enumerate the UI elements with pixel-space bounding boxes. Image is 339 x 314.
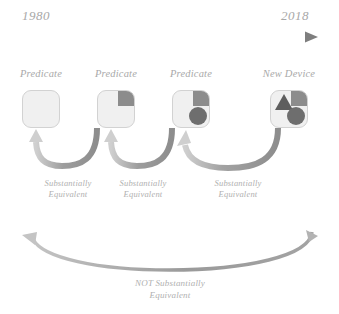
curved-left-arrow-icon-3 (170, 126, 292, 172)
timeline-arrow-icon (0, 26, 339, 46)
arrow-label-not-equivalent-line1: NOT Substantially (135, 278, 205, 288)
device-label-2: Predicate (77, 68, 155, 79)
timeline-start-year: 1980 (22, 8, 50, 24)
arrow-label-1-line2: Equivalent (28, 189, 108, 200)
square-shape-icon (291, 91, 307, 106)
arrow-label-2-line2: Equivalent (103, 189, 183, 200)
arrow-label-3-line1: Substantially (215, 178, 262, 188)
arrow-label-not-equivalent: NOT Substantially Equivalent (90, 278, 250, 301)
device-box-predicate-3[interactable] (172, 90, 210, 128)
arrow-label-1: Substantially Equivalent (28, 178, 108, 200)
device-label-4: New Device (245, 68, 333, 79)
timeline-end-year: 2018 (281, 8, 309, 24)
square-shape-icon (118, 91, 134, 106)
circle-shape-icon (189, 107, 207, 125)
arrow-label-3: Substantially Equivalent (188, 178, 288, 200)
arrow-label-1-line1: Substantially (45, 178, 92, 188)
device-box-predicate-2[interactable] (97, 90, 135, 128)
arrow-label-not-equivalent-line2: Equivalent (90, 290, 250, 302)
circle-shape-icon (287, 107, 305, 125)
device-label-1: Predicate (2, 68, 80, 79)
square-shape-icon (193, 91, 209, 106)
curved-left-arrow-icon-not-equivalent (6, 228, 333, 280)
diagram-canvas: 1980 2018 Predicate Predicate Predicate … (0, 0, 339, 314)
arrow-label-2-line1: Substantially (120, 178, 167, 188)
device-box-predicate-1[interactable] (22, 90, 60, 128)
device-label-3: Predicate (152, 68, 230, 79)
arrow-label-2: Substantially Equivalent (103, 178, 183, 200)
device-box-new-device[interactable] (270, 90, 308, 128)
arrow-label-3-line2: Equivalent (188, 189, 288, 200)
